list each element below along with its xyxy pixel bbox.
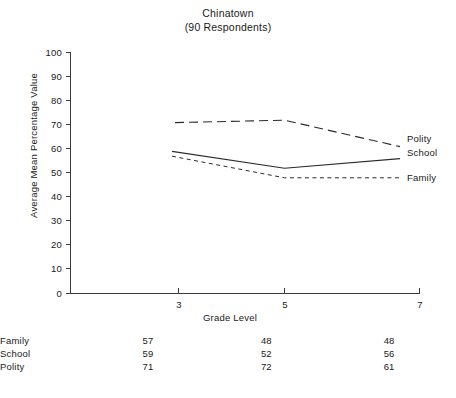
plot-area: [0, 0, 456, 330]
table-row-label: Family: [0, 334, 143, 347]
y-tick-label: 0: [32, 289, 62, 299]
series-line-polity: [175, 120, 400, 146]
legend-item-polity: Polity: [407, 134, 431, 144]
table-row-label: Polity: [0, 360, 143, 373]
series-line-family: [172, 156, 400, 178]
table-cell-value: 71: [143, 360, 261, 373]
y-axis-label: Average Mean Percentage Value: [28, 61, 39, 231]
table-cell-value: 48: [384, 334, 456, 347]
table-cell-value: 59: [143, 347, 261, 360]
table-row: Family 57 48 48: [0, 334, 456, 347]
x-axis-label: Grade Level: [150, 312, 310, 323]
table-cell-value: 57: [143, 334, 261, 347]
legend-item-family: Family: [407, 173, 436, 183]
series-line-school: [172, 151, 400, 168]
table-cell-value: 48: [261, 334, 384, 347]
table-cell-value: 52: [261, 347, 384, 360]
x-tick-label: 7: [405, 300, 435, 310]
x-tick-marks: [179, 288, 420, 294]
table-cell-value: 61: [384, 360, 456, 373]
data-table: Family 57 48 48 School 59 52 56 Polity 7…: [0, 334, 456, 373]
chart-container: Chinatown (90 Respondents): [0, 0, 456, 398]
y-tick-label: 20: [32, 240, 62, 250]
table-row-label: School: [0, 347, 143, 360]
legend-item-school: School: [407, 148, 437, 158]
table-row: School 59 52 56: [0, 347, 456, 360]
table-cell-value: 72: [261, 360, 384, 373]
table-cell-value: 56: [384, 347, 456, 360]
y-tick-label: 10: [32, 264, 62, 274]
x-tick-label: 5: [270, 300, 300, 310]
y-tick-label: 100: [32, 48, 62, 58]
y-tick-marks: [66, 53, 71, 294]
table-row: Polity 71 72 61: [0, 360, 456, 373]
x-tick-label: 3: [164, 300, 194, 310]
